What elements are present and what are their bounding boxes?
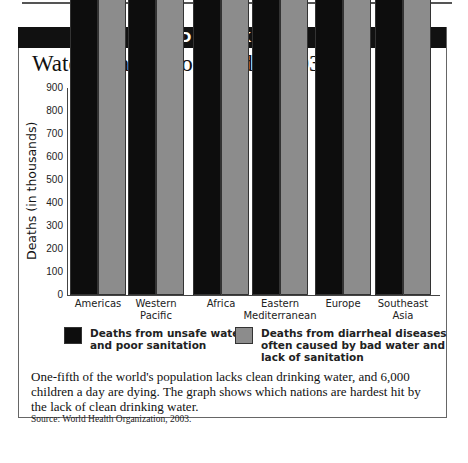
bar-diarrheal bbox=[98, 0, 126, 295]
bar-diarrheal bbox=[403, 0, 431, 295]
x-category-label: SoutheastAsia bbox=[358, 298, 448, 322]
bar-unsafe-water bbox=[315, 0, 343, 295]
y-tick-label: 500 bbox=[33, 174, 63, 185]
bar-unsafe-water bbox=[70, 0, 98, 295]
y-tick-label: 800 bbox=[33, 105, 63, 116]
y-tick-label: 100 bbox=[33, 266, 63, 277]
y-axis bbox=[67, 88, 68, 296]
y-tick-label: 200 bbox=[33, 243, 63, 254]
bar-diarrheal bbox=[221, 0, 249, 295]
bar-unsafe-water bbox=[252, 0, 280, 295]
legend-label-unsafe-water: Deaths from unsafe waterand poor sanitat… bbox=[90, 327, 245, 351]
y-tick-label: 900 bbox=[33, 82, 63, 93]
y-tick-label: 700 bbox=[33, 128, 63, 139]
legend-label-diarrheal: Deaths from diarrheal diseasesoften caus… bbox=[261, 327, 447, 363]
bar-diarrheal bbox=[280, 0, 308, 295]
y-axis-label: Deaths (in thousands) bbox=[24, 122, 39, 260]
bar-unsafe-water bbox=[375, 0, 403, 295]
legend-swatch-diarrheal bbox=[235, 327, 253, 344]
source-note: Source: World Health Organization, 2003. bbox=[31, 414, 191, 424]
bar-unsafe-water bbox=[128, 0, 156, 295]
bar-diarrheal bbox=[156, 0, 184, 295]
y-tick-label: 600 bbox=[33, 151, 63, 162]
legend-swatch-unsafe-water bbox=[64, 327, 82, 344]
bar-diarrheal bbox=[343, 0, 371, 295]
bar-unsafe-water bbox=[193, 0, 221, 295]
y-tick-label: 400 bbox=[33, 197, 63, 208]
y-tick-label: 300 bbox=[33, 220, 63, 231]
x-axis bbox=[67, 295, 440, 296]
caption: One-fifth of the world's population lack… bbox=[31, 369, 431, 414]
